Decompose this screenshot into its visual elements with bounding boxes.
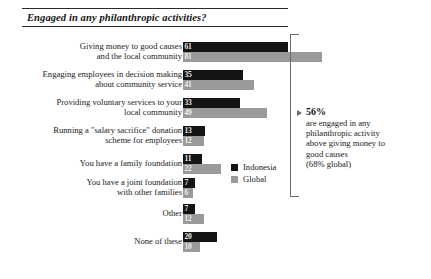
legend-label-global: Global — [243, 175, 266, 184]
bar-global: 12 — [183, 214, 204, 224]
title-rule-bottom — [22, 26, 288, 27]
bar-global: 49 — [183, 108, 267, 118]
page-title: Engaged in any philanthropic activities? — [22, 9, 288, 26]
bar-indonesia: 61 — [183, 42, 288, 52]
bar-value-label: 10 — [185, 243, 192, 251]
bar-indonesia: 7 — [183, 204, 195, 214]
bar-value-label: 35 — [185, 71, 192, 79]
annotation-line-3: above giving money to — [306, 138, 428, 148]
chart-legend: Indonesia Global — [231, 163, 276, 187]
category-label-line: You have a family foundation — [80, 159, 182, 169]
annotation-line-1: are engaged in any — [306, 118, 428, 128]
bar-global: 6 — [183, 188, 193, 198]
bar-value-label: 13 — [185, 127, 192, 135]
bar-indonesia: 35 — [183, 70, 243, 80]
category-label: Giving money to good causesand the local… — [80, 42, 182, 61]
category-label-line: and the local community — [80, 52, 182, 62]
category-label-line: scheme for employees — [53, 136, 182, 146]
category-label: You have a family foundation — [80, 159, 182, 169]
bar-value-label: 12 — [185, 215, 192, 223]
annotation-line-5: (68% global) — [306, 159, 428, 169]
bar-value-label: 81 — [185, 53, 192, 61]
bar-global: 12 — [183, 136, 204, 146]
bar-indonesia: 7 — [183, 178, 195, 188]
bar-indonesia: 11 — [183, 154, 202, 164]
category-label-line: local community — [56, 108, 182, 118]
annotation-line-2: philanthropic activity — [306, 128, 428, 138]
bar-value-label: 7 — [185, 179, 189, 187]
category-label: Providing voluntary services to yourloca… — [56, 98, 182, 117]
bar-indonesia: 13 — [183, 126, 205, 136]
bar-value-label: 33 — [185, 99, 192, 107]
category-label-line: None of these — [134, 237, 182, 247]
annotation-line-4: good causes — [306, 149, 428, 159]
bar-indonesia: 33 — [183, 98, 240, 108]
legend-item-global: Global — [231, 175, 276, 184]
category-label-line: Other — [162, 209, 182, 219]
bar-value-label: 11 — [185, 155, 192, 163]
bar-value-label: 20 — [185, 233, 192, 241]
bar-group: 3541 — [183, 70, 254, 90]
legend-item-indonesia: Indonesia — [231, 163, 276, 172]
category-label: You have a joint foundationwith other fa… — [86, 178, 182, 197]
bar-value-label: 7 — [185, 205, 189, 213]
category-label: Running a "salary sacrifice" donationsch… — [53, 126, 182, 145]
category-label: None of these — [134, 237, 182, 247]
bar-group: 6181 — [183, 42, 322, 62]
bar-value-label: 49 — [185, 109, 192, 117]
bar-global: 81 — [183, 52, 322, 62]
category-label: Engaging employees in decision makingabo… — [43, 70, 182, 89]
bar-global: 22 — [183, 164, 221, 174]
legend-label-indonesia: Indonesia — [243, 163, 276, 172]
chart-title-block: Engaged in any philanthropic activities? — [22, 8, 288, 27]
bar-group: 76 — [183, 178, 195, 198]
bar-group: 1312 — [183, 126, 205, 146]
bar-value-label: 6 — [185, 189, 189, 197]
bar-global: 10 — [183, 242, 200, 252]
category-label-line: about community service — [43, 80, 182, 90]
annotation-bracket-pointer — [297, 110, 302, 116]
legend-swatch-global — [231, 176, 238, 183]
bar-group: 712 — [183, 204, 204, 224]
bar-value-label: 41 — [185, 81, 192, 89]
annotation-value: 56% — [306, 106, 428, 117]
bar-group: 1122 — [183, 154, 221, 174]
category-label: Other — [162, 209, 182, 219]
bar-value-label: 12 — [185, 137, 192, 145]
bar-group: 2010 — [183, 232, 217, 252]
bar-group: 3349 — [183, 98, 267, 118]
bar-global: 41 — [183, 80, 254, 90]
annotation-text-block: 56% are engaged in any philanthropic act… — [306, 106, 428, 169]
legend-swatch-indonesia — [231, 164, 238, 171]
category-label-line: with other families — [86, 188, 182, 198]
bar-value-label: 22 — [185, 165, 192, 173]
chart-figure: Engaged in any philanthropic activities?… — [0, 0, 431, 279]
bar-indonesia: 20 — [183, 232, 217, 242]
bar-value-label: 61 — [185, 43, 192, 51]
